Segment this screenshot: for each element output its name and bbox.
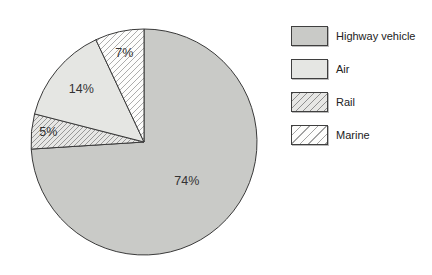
- legend-label-rail: Rail: [336, 96, 355, 108]
- legend-item-air: Air: [291, 59, 415, 79]
- pie-slice-value-air: 14%: [69, 82, 94, 96]
- legend-label-air: Air: [336, 63, 349, 75]
- legend: Highway vehicle Air Rail Marine: [291, 26, 415, 145]
- legend-label-highway-vehicle: Highway vehicle: [336, 30, 415, 42]
- pie-slice-value-marine: 7%: [115, 46, 133, 60]
- legend-swatch-rail: [291, 92, 328, 112]
- legend-swatch-air: [291, 59, 328, 79]
- legend-item-highway-vehicle: Highway vehicle: [291, 26, 415, 46]
- legend-swatch-highway-vehicle: [291, 26, 328, 46]
- pie-chart-figure: 74%5%14%7% Highway vehicle Air Rail Mari…: [0, 0, 432, 275]
- pie-slice-value-highway-vehicle: 74%: [174, 174, 199, 188]
- legend-item-rail: Rail: [291, 92, 415, 112]
- legend-item-marine: Marine: [291, 125, 415, 145]
- pie-slice-value-rail: 5%: [39, 125, 57, 139]
- legend-swatch-marine: [291, 125, 328, 145]
- legend-label-marine: Marine: [336, 129, 370, 141]
- pie-slices-group: [31, 29, 257, 255]
